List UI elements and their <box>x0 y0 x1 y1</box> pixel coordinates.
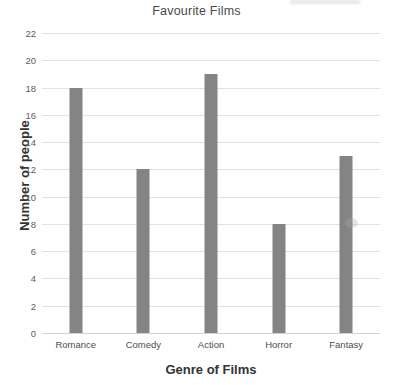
plot-area <box>42 33 380 333</box>
scan-artifact-top-edge <box>290 0 360 4</box>
bar <box>137 169 150 333</box>
y-axis-tick-label: 6 <box>6 246 36 257</box>
bar <box>69 88 82 333</box>
y-axis-tick-label: 8 <box>6 218 36 229</box>
y-axis-tick-label: 16 <box>6 109 36 120</box>
y-axis-tick-label: 4 <box>6 273 36 284</box>
bar <box>272 224 285 333</box>
y-axis-tick-label: 22 <box>6 28 36 39</box>
y-axis-tick-label: 0 <box>6 328 36 339</box>
y-axis-tick-label: 18 <box>6 82 36 93</box>
gridline <box>42 33 380 34</box>
y-axis-tick-label: 12 <box>6 164 36 175</box>
x-axis-category-label: Fantasy <box>301 339 391 350</box>
bar <box>205 74 218 333</box>
y-axis-tick-label: 14 <box>6 137 36 148</box>
scan-artifact-smudge <box>345 218 358 228</box>
chart-title: Favourite Films <box>0 4 393 18</box>
gridline <box>42 60 380 61</box>
bar-chart: Favourite Films Number of people Genre o… <box>0 0 393 385</box>
bar <box>340 156 353 333</box>
gridline <box>42 333 380 334</box>
x-axis-title: Genre of Films <box>42 362 380 377</box>
y-axis-tick-label: 10 <box>6 191 36 202</box>
y-axis-tick-label: 20 <box>6 55 36 66</box>
y-axis-tick-label: 2 <box>6 300 36 311</box>
